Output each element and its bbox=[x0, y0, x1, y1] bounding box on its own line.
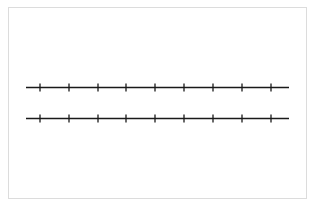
number-lines-group bbox=[26, 84, 289, 123]
number-line-bottom bbox=[26, 115, 289, 123]
number-lines-diagram bbox=[0, 0, 314, 207]
number-line-top bbox=[26, 84, 289, 92]
